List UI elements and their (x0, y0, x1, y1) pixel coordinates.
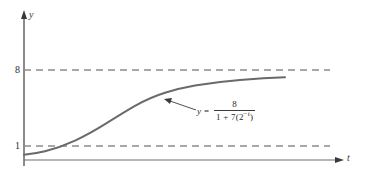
equation-fraction: 8 1 + 7(2−t) (214, 99, 255, 123)
denominator-term-one: 1 (216, 112, 221, 122)
t-axis-arrowhead (335, 157, 344, 163)
equation-equals-sign: = (204, 106, 209, 116)
y-axis-label: y (29, 10, 33, 20)
annotation-arrowhead (164, 98, 172, 104)
figure-container: y t 8 1 y = 8 1 + 7(2−t) (0, 0, 366, 171)
y-axis-arrowhead (21, 10, 27, 19)
y-tick-label-8: 8 (8, 65, 20, 75)
equation-numerator: 8 (228, 99, 241, 110)
denominator-close-paren: ) (250, 112, 253, 122)
denominator-plus-sign: + (223, 112, 228, 122)
y-tick-label-1: 1 (8, 141, 20, 151)
equation-denominator: 1 + 7(2−t) (214, 111, 255, 122)
equation-annotation: y = 8 1 + 7(2−t) (197, 99, 255, 123)
t-axis-label: t (347, 153, 350, 163)
plot-canvas (0, 0, 366, 171)
equation-left-side: y (197, 106, 201, 116)
annotation-leader-line (170, 101, 196, 110)
